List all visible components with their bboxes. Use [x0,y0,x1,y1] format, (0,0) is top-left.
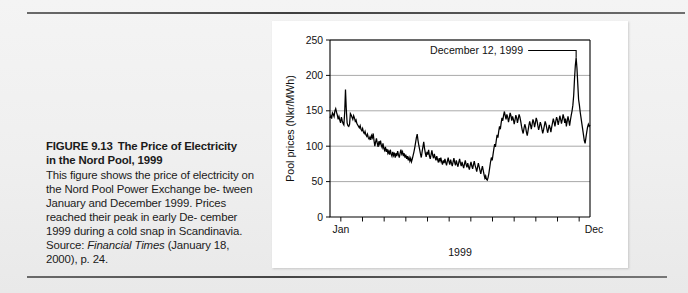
y-tick-label: 150 [306,105,324,116]
y-tick-label: 200 [306,70,324,81]
figure-panel: 050100150200250 December 12, 1999 Pool p… [272,21,628,268]
figure-caption-title: FIGURE 9.13The Price of Electricity in t… [46,139,258,167]
y-tick-label: 0 [317,212,323,223]
x-tick-label-jan: Jan [332,224,349,235]
figure-caption: FIGURE 9.13The Price of Electricity in t… [46,139,258,266]
peak-annotation: December 12, 1999 [430,44,576,58]
figure-number: FIGURE 9.13 [46,140,113,152]
y-axis-ticks: 050100150200250 [306,35,330,223]
price-line-chart: 050100150200250 December 12, 1999 Pool p… [272,21,628,268]
top-horizontal-rule [27,12,685,14]
annotation-leader-line [528,51,576,58]
x-axis-ticks [341,217,579,222]
y-tick-label: 100 [306,141,324,152]
page-background: FIGURE 9.13The Price of Electricity in t… [0,0,688,293]
x-axis-title: 1999 [448,246,472,258]
y-axis-title: Pool prices (Nkr/MWh) [284,75,296,182]
caption-source-title: Financial Times [87,239,164,251]
figure-title-line2: in the Nord Pool, 1999 [46,154,162,166]
pool-price-series [330,58,590,180]
figure-title-line1: The Price of Electricity [118,140,237,152]
y-tick-label: 50 [311,176,323,187]
x-tick-label-dec: Dec [585,224,603,235]
annotation-label: December 12, 1999 [430,44,523,56]
figure-caption-body: This figure shows the price of electrici… [46,168,258,266]
y-tick-label: 250 [306,35,324,46]
bottom-horizontal-rule [27,276,667,278]
caption-line-1: This figure shows the price of electrici… [46,169,238,181]
